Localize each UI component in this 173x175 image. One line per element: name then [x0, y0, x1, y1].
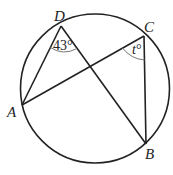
circle-geometry-diagram: D C A B 43° t° — [0, 0, 173, 175]
segment-cb — [144, 36, 146, 144]
label-d: D — [53, 8, 65, 24]
circle — [21, 14, 170, 163]
label-c: C — [144, 19, 155, 35]
label-a: A — [6, 104, 17, 120]
angle-label-d: 43° — [53, 38, 73, 53]
angle-label-c: t° — [132, 42, 142, 57]
angle-unit: ° — [136, 42, 142, 57]
label-b: B — [145, 146, 154, 162]
segment-ac — [22, 36, 144, 105]
